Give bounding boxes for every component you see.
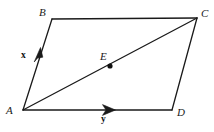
- edge-bc: [52, 18, 197, 19]
- vector-label-x: x: [21, 51, 26, 61]
- vertex-label-b: B: [39, 7, 46, 18]
- point-label-e: E: [100, 51, 107, 62]
- geometry-figure: A B C D E x y: [0, 0, 214, 132]
- vertex-label-a: A: [6, 105, 13, 116]
- point-e-dot: [107, 63, 112, 68]
- vector-label-y: y: [101, 115, 106, 125]
- vertex-label-d: D: [177, 107, 185, 118]
- edge-cd: [172, 18, 197, 110]
- vertex-label-c: C: [201, 8, 208, 19]
